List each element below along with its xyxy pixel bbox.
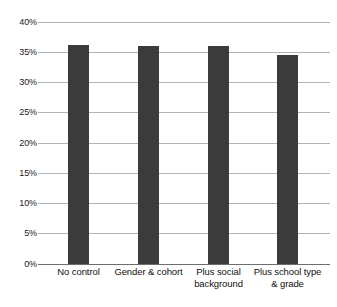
bar (208, 46, 229, 263)
y-axis-tick-label: 30% (3, 78, 37, 87)
y-axis-tick-label: 40% (3, 18, 37, 27)
x-axis-category-label: Plus social background (182, 266, 256, 289)
y-axis-tick-mark (38, 264, 43, 265)
y-axis-tick-label: 10% (3, 199, 37, 208)
gridline (43, 22, 330, 23)
y-axis-tick-label: 35% (3, 48, 37, 57)
y-axis-tick-mark (38, 112, 43, 113)
plot-area: 0%5%10%15%20%25%30%35%40% (43, 22, 330, 264)
y-axis-tick-mark (38, 233, 43, 234)
y-axis-tick-mark (38, 203, 43, 204)
bar (68, 45, 89, 263)
y-axis-tick-label: 15% (3, 169, 37, 178)
y-axis-tick-mark (38, 143, 43, 144)
x-axis-category-label: Gender & cohort (114, 266, 184, 278)
y-axis-tick-mark (38, 22, 43, 23)
y-axis-tick-label: 0% (3, 260, 37, 269)
bar-chart: 0%5%10%15%20%25%30%35%40% No controlGend… (0, 0, 337, 307)
x-axis-category-label: No control (43, 266, 115, 278)
x-axis-category-label: Plus school type & grade (250, 266, 326, 289)
y-axis-tick-mark (38, 82, 43, 83)
y-axis-tick-label: 5% (3, 229, 37, 238)
y-axis-tick-mark (38, 173, 43, 174)
bar (277, 55, 298, 263)
y-axis-tick-mark (38, 52, 43, 53)
bar (138, 46, 159, 264)
x-axis-line (43, 264, 330, 265)
x-axis-label-layer: No controlGender & cohortPlus social bac… (43, 266, 330, 306)
y-axis-tick-label: 20% (3, 139, 37, 148)
y-axis-tick-label: 25% (3, 108, 37, 117)
